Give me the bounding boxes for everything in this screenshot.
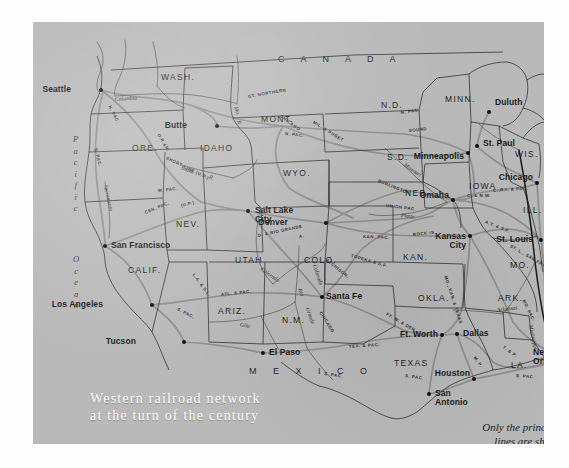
state-label-ill: ILL.: [523, 206, 542, 215]
city-dot-butte: [215, 124, 219, 128]
city-label-minneapolis: Minneapolis: [33, 152, 464, 161]
city-label-butte: Butte: [33, 121, 187, 130]
city-dot-salt-lake-city: [246, 209, 250, 213]
city-label-denver: Denver: [33, 218, 288, 227]
country-label-canada: C A N A D A: [278, 55, 403, 64]
city-dot-santa-fe: [320, 295, 324, 299]
map-page: PacificOcean C A N A D AM E X I C O WASH…: [0, 0, 569, 468]
city-dot-houston: [472, 377, 476, 381]
city-label-st-paul: St. Paul: [483, 139, 515, 148]
state-label-nm: N.M.: [282, 316, 305, 325]
map-caption-line-1: Only the principal: [443, 420, 544, 434]
map-panel: PacificOcean C A N A D AM E X I C O WASH…: [33, 22, 544, 444]
city-dot-omaha: [451, 198, 455, 202]
city-label-houston: Houston: [33, 369, 470, 378]
city-label-santa-fe: Santa Fe: [326, 292, 362, 301]
city-dot-st-louis: [539, 238, 543, 242]
city-dot-los-angeles: [150, 303, 154, 307]
state-label-calif: CALIF.: [128, 266, 161, 275]
map-title: Western railroad network at the turn of …: [90, 390, 261, 424]
city-dot-tucson: [182, 340, 186, 344]
map-caption-line-2: lines are shown: [443, 434, 544, 444]
state-label-mo: MO.: [510, 261, 530, 270]
city-dot-dallas: [455, 332, 459, 336]
river-label-platte: Platte: [401, 213, 415, 220]
city-dot-denver: [324, 221, 328, 225]
state-label-okla: OKLA.: [418, 294, 450, 303]
map-title-line-1: Western railroad network: [90, 390, 261, 407]
state-label-texas: TEXAS: [394, 359, 428, 368]
city-dot-seattle: [99, 88, 103, 92]
city-dot-san-antonio: [427, 392, 431, 396]
city-dot-st-paul: [475, 144, 479, 148]
state-label-ariz: ARIZ.: [218, 307, 246, 316]
city-label-chicago: Chicago: [33, 173, 533, 182]
state-label-minn: MINN.: [445, 95, 476, 104]
city-label-dallas: Dallas: [463, 329, 489, 338]
city-dot-minneapolis: [466, 151, 470, 155]
state-label-wash: WASH.: [161, 73, 195, 82]
city-label-ft-worth: Ft. Worth: [33, 330, 438, 339]
great-lakes: [469, 62, 544, 178]
city-label-seattle: Seattle: [33, 85, 71, 94]
map-title-line-2: at the turn of the century: [90, 407, 261, 424]
state-label-la: LA.: [511, 361, 528, 370]
city-label-el-paso: El Paso: [269, 348, 300, 357]
city-label-new-orleans: New Orleans: [533, 348, 544, 366]
city-label-san-antonio: San Antonio: [435, 389, 468, 407]
railroad-label-c-nw: C. & N.W.: [467, 194, 491, 199]
state-label-ark: ARK.: [498, 294, 523, 303]
state-label-nd: N.D.: [381, 101, 403, 110]
city-dot-ft-worth: [440, 333, 444, 337]
city-label-duluth: Duluth: [495, 98, 523, 107]
state-label-utah: UTAH: [235, 256, 263, 265]
state-label-kan: KAN.: [403, 253, 428, 262]
river-label-rio-grande: Rio: [296, 288, 304, 297]
city-dot-chicago: [535, 181, 539, 185]
map-caption: Only the principal lines are shown: [443, 420, 544, 444]
city-dot-duluth: [487, 110, 491, 114]
city-label-st-louis: St. Louis: [33, 235, 533, 244]
state-label-wis: WIS.: [515, 150, 539, 159]
city-label-los-angeles: Los Angeles: [33, 300, 103, 309]
city-label-omaha: Omaha: [33, 191, 449, 200]
city-dot-el-paso: [261, 351, 265, 355]
